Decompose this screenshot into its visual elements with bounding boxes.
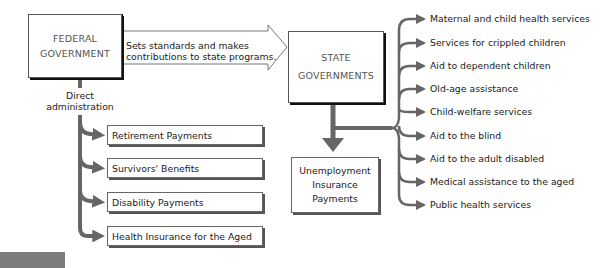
federal-program-retirement: Retirement Payments — [107, 125, 263, 145]
federal-program-disability: Disability Payments — [107, 192, 263, 212]
state-program-child-welfare: Child-welfare services — [430, 106, 532, 118]
main-arrow-line-2: contributions to state programs. — [126, 51, 276, 62]
unemployment-line-2: Insurance — [312, 178, 358, 192]
state-governments-box: STATE GOVERNMENTS — [288, 31, 384, 103]
federal-government-box: FEDERAL GOVERNMENT — [28, 14, 122, 78]
state-program-dependent-children: Aid to dependent children — [430, 60, 551, 72]
unemployment-insurance-box: Unemployment Insurance Payments — [291, 157, 379, 213]
unemployment-line-3: Payments — [312, 192, 358, 206]
federal-line-1: FEDERAL — [53, 31, 97, 46]
state-program-public-health: Public health services — [430, 199, 531, 211]
federal-line-2: GOVERNMENT — [40, 46, 110, 61]
state-line-2: GOVERNMENTS — [298, 67, 374, 85]
state-program-blind: Aid to the blind — [430, 130, 501, 142]
state-program-old-age: Old-age assistance — [430, 83, 518, 95]
main-arrow-line-1: Sets standards and makes — [126, 40, 276, 51]
state-program-adult-disabled: Aid to the adult disabled — [430, 153, 544, 165]
main-arrow-label: Sets standards and makes contributions t… — [126, 40, 276, 62]
state-program-crippled-children: Services for crippled children — [430, 37, 566, 49]
state-line-1: STATE — [321, 49, 351, 67]
federal-program-survivors: Survivors' Benefits — [107, 158, 263, 178]
federal-program-health-insurance: Health Insurance for the Aged — [107, 226, 263, 246]
unemployment-line-1: Unemployment — [299, 164, 370, 178]
state-program-branches — [392, 19, 424, 205]
direct-administration-label: Direct administration — [40, 90, 120, 112]
grey-block — [0, 252, 65, 268]
state-stem — [322, 103, 392, 152]
direct-line-2: administration — [40, 101, 120, 112]
direct-line-1: Direct — [40, 90, 120, 101]
state-program-medical-aged: Medical assistance to the aged — [430, 176, 574, 188]
state-program-maternal: Maternal and child health services — [430, 13, 590, 25]
